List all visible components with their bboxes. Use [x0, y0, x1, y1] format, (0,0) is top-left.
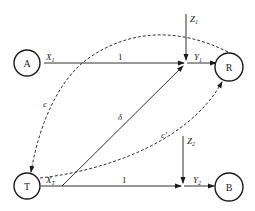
label-x1: X1	[45, 52, 55, 63]
node-r: R	[215, 53, 243, 81]
svg-text:T: T	[24, 181, 30, 192]
path-diagram: A R T B X1 XT Y1 Y2 Z1 Z2 1 1 δ c c′	[0, 0, 255, 211]
svg-text:R: R	[226, 62, 233, 73]
label-y1: Y1	[194, 52, 202, 63]
label-delta: δ	[118, 112, 123, 122]
node-b: B	[215, 173, 243, 201]
label-z2: Z2	[187, 136, 195, 147]
label-xt: XT	[45, 175, 56, 186]
svg-text:A: A	[23, 58, 31, 69]
label-weight-top: 1	[118, 52, 123, 62]
edge-c-prime-dashed	[40, 82, 222, 178]
label-y2: Y2	[193, 175, 201, 186]
label-c: c	[43, 99, 47, 109]
node-t: T	[14, 173, 40, 199]
label-weight-bottom: 1	[122, 175, 127, 185]
svg-text:B: B	[226, 182, 233, 193]
label-c-prime: c′	[161, 130, 168, 140]
label-z1: Z1	[190, 14, 198, 25]
edge-delta	[62, 66, 183, 186]
node-a: A	[14, 50, 40, 76]
